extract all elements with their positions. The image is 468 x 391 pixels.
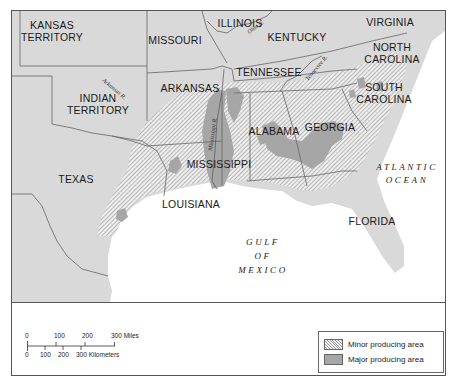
map-panel: KANSAS TERRITORY MISSOURI ILLINOIS KENTU… bbox=[12, 11, 445, 303]
scale-km-200: 200 bbox=[58, 351, 69, 358]
scale-miles-100: 100 bbox=[54, 332, 65, 339]
label-kansas-territory-2: TERRITORY bbox=[21, 31, 83, 43]
scale-km-100: 100 bbox=[40, 351, 51, 358]
label-louisiana: LOUISIANA bbox=[162, 198, 220, 210]
label-indian-territory-1: INDIAN bbox=[80, 92, 117, 104]
map-frame: KANSAS TERRITORY MISSOURI ILLINOIS KENTU… bbox=[11, 10, 446, 376]
label-indian-territory-2: TERRITORY bbox=[67, 104, 129, 116]
solid-swatch-icon bbox=[324, 354, 343, 365]
label-north-carolina-2: CAROLINA bbox=[364, 53, 419, 65]
label-of: OF bbox=[254, 251, 271, 261]
label-arkansas: ARKANSAS bbox=[161, 82, 220, 94]
label-alabama: ALABAMA bbox=[248, 125, 299, 137]
legend-item-minor: Minor producing area bbox=[324, 338, 424, 350]
legend-item-major: Major producing area bbox=[324, 353, 424, 365]
scale-miles-0: 0 bbox=[25, 332, 29, 339]
label-south-carolina-1: SOUTH bbox=[365, 81, 403, 93]
legend: Minor producing area Major producing are… bbox=[318, 331, 444, 373]
scale-miles-300: 300 Miles bbox=[111, 332, 139, 339]
scale-km-0: 0 bbox=[25, 351, 29, 358]
label-texas: TEXAS bbox=[58, 173, 93, 185]
label-atlantic: ATLANTIC bbox=[375, 162, 437, 172]
label-florida: FLORIDA bbox=[349, 215, 396, 227]
label-kentucky: KENTUCKY bbox=[268, 31, 327, 43]
hatched-swatch-icon bbox=[324, 339, 343, 350]
legend-label-major: Major producing area bbox=[348, 355, 424, 364]
legend-label-minor: Minor producing area bbox=[348, 340, 424, 349]
cotton-production-map: KANSAS TERRITORY MISSOURI ILLINOIS KENTU… bbox=[12, 11, 445, 302]
label-south-carolina-2: CAROLINA bbox=[356, 93, 411, 105]
label-gulf: GULF bbox=[246, 237, 280, 247]
label-ocean: OCEAN bbox=[386, 175, 429, 185]
label-tennessee: TENNESSEE bbox=[236, 66, 301, 78]
label-north-carolina-1: NORTH bbox=[373, 41, 411, 53]
scale-km-300: 300 Kilometers bbox=[76, 351, 119, 358]
scale-miles-200: 200 bbox=[82, 332, 93, 339]
label-missouri: MISSOURI bbox=[148, 34, 202, 46]
label-virginia: VIRGINIA bbox=[366, 16, 414, 28]
label-mexico: MEXICO bbox=[237, 265, 288, 275]
scale-bar: 0 100 200 300 Miles 0 100 200 300 Kilome… bbox=[27, 332, 137, 358]
label-kansas-territory-1: KANSAS bbox=[30, 19, 74, 31]
label-georgia: GEORGIA bbox=[305, 121, 355, 133]
label-mississippi: MISSISSIPPI bbox=[187, 158, 252, 170]
